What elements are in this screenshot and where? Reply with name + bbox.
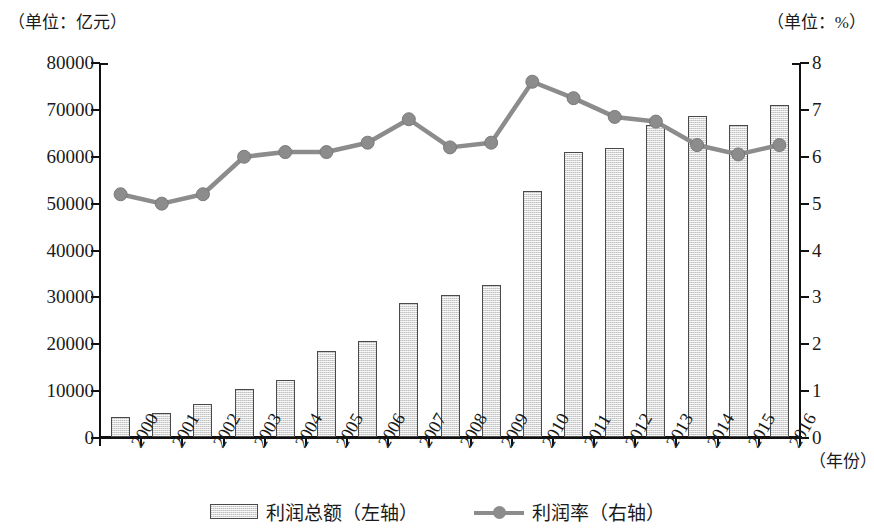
left-axis-unit-label: （单位：亿元） bbox=[8, 8, 127, 33]
line-swatch-marker bbox=[493, 506, 506, 519]
line-marker bbox=[608, 110, 621, 123]
left-axis-tick-label: 30000 bbox=[47, 286, 95, 308]
right-axis-tick bbox=[800, 62, 809, 64]
legend-label-bar: 利润总额（左轴） bbox=[266, 498, 418, 525]
line-marker bbox=[279, 146, 292, 159]
line-swatch-icon bbox=[474, 505, 524, 519]
right-axis-tick-label: 6 bbox=[812, 146, 822, 168]
right-axis-tick-label: 5 bbox=[812, 193, 822, 215]
line-marker bbox=[238, 150, 251, 163]
right-axis-tick-label: 8 bbox=[812, 52, 822, 74]
line-marker bbox=[567, 92, 580, 105]
right-axis-unit-label: （单位：%） bbox=[767, 8, 866, 33]
profit-chart: （单位：亿元） （单位：%） 0100002000030000400005000… bbox=[0, 0, 874, 532]
line-marker bbox=[485, 136, 498, 149]
left-axis-tick-label: 60000 bbox=[47, 146, 95, 168]
chart-legend: 利润总额（左轴） 利润率（右轴） bbox=[0, 498, 874, 525]
line-marker bbox=[402, 113, 415, 126]
left-axis-tick-label: 80000 bbox=[47, 52, 95, 74]
right-axis-tick bbox=[800, 390, 809, 392]
x-axis-title: （年份） bbox=[809, 447, 874, 472]
legend-item-line: 利润率（右轴） bbox=[474, 498, 665, 525]
line-marker bbox=[526, 75, 539, 88]
bar-swatch-icon bbox=[210, 504, 258, 519]
right-axis-tick-label: 2 bbox=[812, 333, 822, 355]
right-axis-tick bbox=[800, 156, 809, 158]
line-marker bbox=[320, 146, 333, 159]
right-axis-tick-label: 1 bbox=[812, 380, 822, 402]
line-marker bbox=[691, 139, 704, 152]
line-marker bbox=[649, 115, 662, 128]
line-marker bbox=[732, 148, 745, 161]
right-axis-tick-label: 3 bbox=[812, 286, 822, 308]
left-axis-tick-label: 50000 bbox=[47, 193, 95, 215]
right-axis-tick bbox=[800, 296, 809, 298]
right-axis-tick bbox=[800, 109, 809, 111]
x-axis-tick bbox=[99, 438, 101, 446]
left-axis-tick-label: 20000 bbox=[47, 333, 95, 355]
left-axis-tick-label: 10000 bbox=[47, 380, 95, 402]
legend-label-line: 利润率（右轴） bbox=[532, 498, 665, 525]
plot-area: 0100002000030000400005000060000700008000… bbox=[100, 63, 800, 437]
left-axis-tick-label: 70000 bbox=[47, 99, 95, 121]
right-axis-tick bbox=[800, 250, 809, 252]
right-axis-tick bbox=[800, 203, 809, 205]
left-axis-tick-label: 40000 bbox=[47, 240, 95, 262]
legend-item-bar: 利润总额（左轴） bbox=[210, 498, 418, 525]
right-axis-tick bbox=[800, 343, 809, 345]
line-marker bbox=[155, 197, 168, 210]
left-axis-tick-label: 0 bbox=[85, 427, 95, 449]
line-marker bbox=[196, 188, 209, 201]
right-axis-tick-label: 4 bbox=[812, 240, 822, 262]
right-axis-tick-label: 7 bbox=[812, 99, 822, 121]
line-marker bbox=[114, 188, 127, 201]
line-marker bbox=[444, 141, 457, 154]
line-marker bbox=[773, 139, 786, 152]
line-series bbox=[100, 63, 800, 438]
line-marker bbox=[361, 136, 374, 149]
